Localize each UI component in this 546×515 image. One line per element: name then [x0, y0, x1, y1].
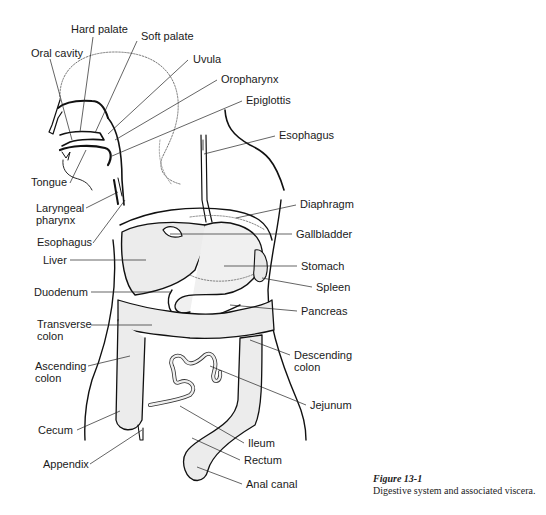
label-descending-colon-line2: colon — [294, 361, 320, 373]
label-epiglottis: Epiglottis — [246, 94, 291, 106]
label-hard-palate: Hard palate — [71, 23, 128, 35]
label-diaphragm: Diaphragm — [300, 198, 354, 210]
label-gallbladder: Gallbladder — [296, 228, 352, 240]
label-esophagus-lower: Esophagus — [37, 236, 92, 248]
label-stomach: Stomach — [301, 260, 344, 272]
label-ascending-colon-line1: Ascending — [35, 360, 86, 372]
label-ascending-colon-line2: colon — [35, 372, 61, 384]
label-ileum: Ileum — [248, 437, 275, 449]
label-esophagus-upper: Esophagus — [279, 129, 334, 141]
label-oropharynx: Oropharynx — [221, 73, 278, 85]
label-soft-palate: Soft palate — [141, 30, 194, 42]
label-jejunum: Jejunum — [310, 399, 352, 411]
label-pancreas: Pancreas — [301, 305, 347, 317]
label-uvula: Uvula — [193, 53, 221, 65]
label-cecum: Cecum — [38, 424, 73, 436]
label-rectum: Rectum — [244, 454, 282, 466]
label-liver: Liver — [43, 254, 67, 266]
label-spleen: Spleen — [316, 281, 350, 293]
label-oral-cavity: Oral cavity — [31, 47, 83, 59]
figure-description: Digestive system and associated viscera. — [373, 485, 535, 497]
label-appendix: Appendix — [43, 458, 89, 470]
label-descending-colon-line1: Descending — [294, 349, 352, 361]
figure-caption: Figure 13-1 Digestive system and associa… — [373, 473, 535, 497]
label-laryngeal-pharynx-line1: Laryngeal — [36, 202, 84, 214]
label-anal-canal: Anal canal — [246, 478, 297, 490]
label-laryngeal-pharynx-line2: pharynx — [36, 214, 75, 226]
figure-number: Figure 13-1 — [373, 473, 535, 485]
label-tongue: Tongue — [31, 176, 67, 188]
digestive-system-figure: Hard palate Soft palate Oral cavity Uvul… — [0, 0, 546, 515]
label-duodenum: Duodenum — [34, 286, 88, 298]
label-transverse-colon-line1: Transverse — [37, 318, 92, 330]
label-transverse-colon-line2: colon — [37, 330, 63, 342]
